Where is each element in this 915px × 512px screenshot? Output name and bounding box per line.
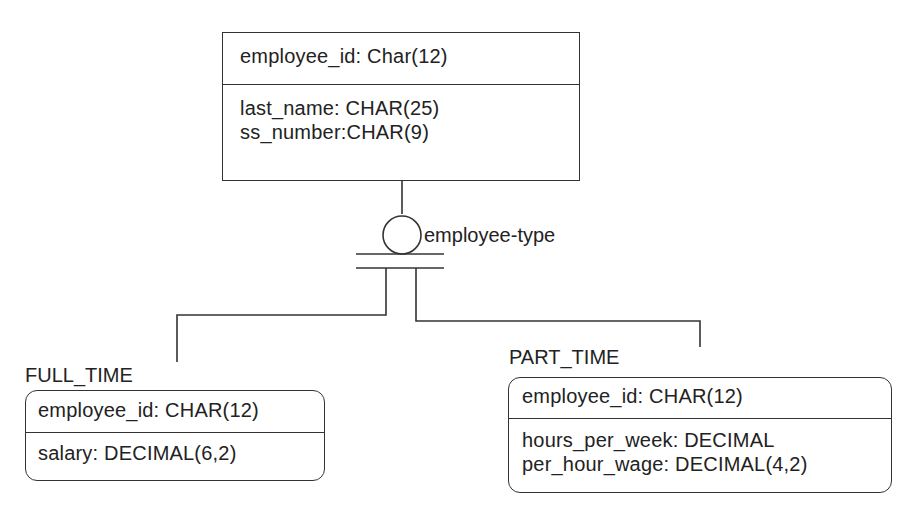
full-time-key-attribute: employee_id: CHAR(12) [38, 398, 324, 422]
full-time-attribute: salary: DECIMAL(6,2) [38, 441, 324, 465]
employee-attribute-section: last_name: CHAR(25) ss_number:CHAR(9) [223, 85, 579, 144]
employee-attribute: last_name: CHAR(25) [240, 96, 579, 120]
employee-key-attribute: employee_id: Char(12) [240, 44, 579, 68]
employee-entity[interactable]: employee_id: Char(12) last_name: CHAR(25… [222, 32, 580, 181]
full-time-attribute-section: salary: DECIMAL(6,2) [26, 433, 324, 465]
discriminator-label: employee-type [424, 224, 555, 246]
part-time-entity[interactable]: employee_id: CHAR(12) hours_per_week: DE… [508, 377, 892, 493]
employee-key-section: employee_id: Char(12) [223, 33, 579, 85]
employee-attribute: ss_number:CHAR(9) [240, 120, 579, 144]
part-time-key-section: employee_id: CHAR(12) [509, 378, 891, 419]
part-time-connector [416, 268, 700, 347]
full-time-key-section: employee_id: CHAR(12) [26, 391, 324, 433]
full-time-connector [177, 268, 386, 362]
part-time-attribute: hours_per_week: DECIMAL [522, 428, 891, 452]
part-time-key-attribute: employee_id: CHAR(12) [522, 384, 891, 408]
full-time-entity-name: FULL_TIME [25, 364, 133, 386]
full-time-entity[interactable]: employee_id: CHAR(12) salary: DECIMAL(6,… [25, 390, 325, 481]
part-time-attribute: per_hour_wage: DECIMAL(4,2) [522, 452, 891, 476]
part-time-entity-name: PART_TIME [509, 346, 619, 368]
part-time-attribute-section: hours_per_week: DECIMAL per_hour_wage: D… [509, 419, 891, 476]
discriminator-circle [383, 216, 421, 254]
